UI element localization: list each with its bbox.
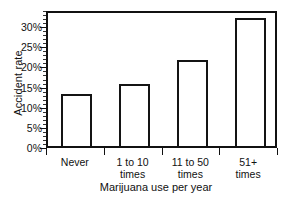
bars-layer (48, 13, 275, 146)
x-tick-label-line1: 1 to 10 (104, 157, 162, 169)
x-tick-label: 51+times (219, 157, 277, 180)
y-tick-label: 10% (14, 103, 42, 113)
x-tick-label-line2: times (104, 169, 162, 181)
x-tick-label-line2: times (219, 169, 277, 181)
y-tick-label: 15% (14, 83, 42, 93)
plot-area (46, 11, 277, 148)
x-axis-title: Marijuana use per year (0, 181, 288, 193)
x-tick-mark (162, 148, 163, 155)
x-tick-mark (277, 148, 278, 155)
y-tick-label: 5% (14, 123, 42, 133)
bar (119, 84, 150, 146)
x-tick-label: 1 to 10times (104, 157, 162, 180)
x-tick-label-line1: 11 to 50 (162, 157, 220, 169)
x-tick-label-line1: 51+ (219, 157, 277, 169)
x-tick-mark (104, 148, 105, 155)
y-axis-tick-labels: 0%5%10%15%20%25%30% (14, 0, 42, 198)
x-tick-label-line2: times (162, 169, 220, 181)
bar-chart: Accident rate 0%5%10%15%20%25%30% Never1… (0, 0, 288, 198)
y-tick-label: 25% (14, 42, 42, 52)
bar (61, 94, 92, 146)
x-tick-label: 11 to 50times (162, 157, 220, 180)
x-tick-mark (46, 148, 47, 155)
y-tick-label: 0% (14, 143, 42, 153)
x-tick-mark (219, 148, 220, 155)
y-tick-label: 30% (14, 22, 42, 32)
x-tick-label: Never (46, 157, 104, 169)
x-tick-label-line1: Never (46, 157, 104, 169)
bar (177, 60, 208, 146)
bar (235, 18, 266, 146)
y-tick-label: 20% (14, 62, 42, 72)
